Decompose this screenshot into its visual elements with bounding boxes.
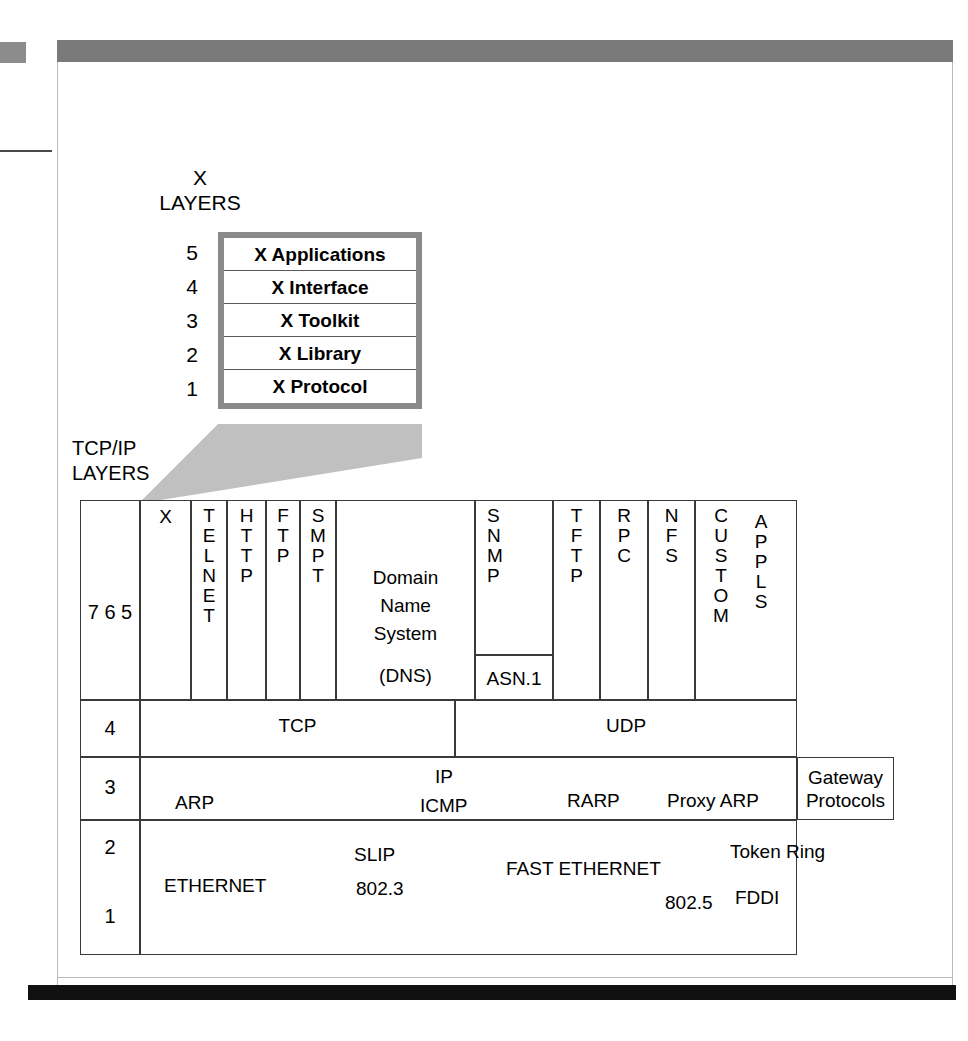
appls-letter-3: L xyxy=(756,572,767,592)
diagram-page: X LAYERS 5 4 3 2 1 X Applications X Inte… xyxy=(0,0,968,1041)
link-label-802-3: 802.3 xyxy=(356,878,404,900)
layer-number-1: 1 xyxy=(80,902,140,930)
http-letter-1: T xyxy=(241,526,253,546)
x-layer-number-3: 3 xyxy=(178,304,206,337)
tftp-letter-2: T xyxy=(571,546,583,566)
appls-letter-2: P xyxy=(755,552,768,572)
protocol-label-dns: Domain Name System xyxy=(336,564,475,648)
x-layer-row-applications: X Applications xyxy=(224,238,416,271)
link-label-slip: SLIP xyxy=(354,844,395,866)
dns-line-1: Name xyxy=(336,592,475,620)
tcpip-table: 7 6 5 X T E L N E T H T T P F T P xyxy=(80,500,797,955)
ftp-letter-1: T xyxy=(277,526,289,546)
rpc-letter-1: P xyxy=(618,526,631,546)
x-layer-row-toolkit: X Toolkit xyxy=(224,304,416,337)
custom-letter-1: U xyxy=(714,526,728,546)
telnet-letter-5: T xyxy=(203,606,215,626)
custom-letter-3: T xyxy=(715,566,727,586)
protocol-label-ftp: F T P xyxy=(266,506,300,566)
http-letter-3: P xyxy=(240,566,253,586)
layer-number-3: 3 xyxy=(80,773,140,801)
telnet-letter-1: E xyxy=(203,526,216,546)
gateway-protocols-cell: Gateway Protocols xyxy=(797,757,894,820)
layer-number-2: 2 xyxy=(80,833,140,861)
dns-line-0: Domain xyxy=(336,564,475,592)
x-layer-number-4: 4 xyxy=(178,270,206,303)
protocol-label-http: H T T P xyxy=(227,506,266,586)
telnet-letter-4: E xyxy=(203,586,216,606)
network-label-arp: ARP xyxy=(175,792,214,814)
x-layer-number-2: 2 xyxy=(178,338,206,371)
tcpip-layers-caption: TCP/IP LAYERS xyxy=(72,436,149,486)
nfs-letter-1: F xyxy=(666,526,678,546)
x-layer-row-protocol: X Protocol xyxy=(224,370,416,403)
page-frame-left xyxy=(57,62,58,988)
tftp-letter-0: T xyxy=(571,506,583,526)
page-border-right xyxy=(952,58,953,988)
snmp-letter-1: N xyxy=(487,526,501,546)
x-layers-caption: X LAYERS xyxy=(140,165,260,215)
link-label-802-5: 802.5 xyxy=(665,892,713,914)
telnet-letter-0: T xyxy=(203,506,215,526)
appls-letter-1: P xyxy=(755,532,768,552)
connector-wedge xyxy=(130,418,430,504)
transport-label-udp: UDP xyxy=(455,715,797,737)
link-label-fast-ethernet: FAST ETHERNET xyxy=(506,858,661,880)
dns-line-2: System xyxy=(336,620,475,648)
smpt-letter-3: T xyxy=(312,566,324,586)
tftp-letter-1: F xyxy=(571,526,583,546)
x-layer-row-library: X Library xyxy=(224,337,416,370)
protocol-label-custom: C U S T O M xyxy=(701,506,741,626)
tftp-letter-3: P xyxy=(570,566,583,586)
layer-number-4: 4 xyxy=(80,714,140,742)
smpt-letter-0: S xyxy=(312,506,325,526)
appls-letter-0: A xyxy=(755,512,768,532)
rpc-letter-0: R xyxy=(617,506,631,526)
smpt-letter-2: P xyxy=(312,546,325,566)
snmp-letter-0: S xyxy=(487,506,500,526)
http-letter-0: H xyxy=(240,506,254,526)
link-label-token-ring: Token Ring xyxy=(730,841,825,863)
ftp-letter-2: P xyxy=(277,546,290,566)
protocol-label-asn1: ASN.1 xyxy=(475,668,553,690)
appls-letter-4: S xyxy=(755,592,768,612)
protocol-label-dns-acronym: (DNS) xyxy=(336,665,475,687)
protocol-label-x: X xyxy=(140,506,191,528)
margin-mark-block xyxy=(0,42,26,63)
http-letter-2: T xyxy=(241,546,253,566)
footer-bar xyxy=(28,985,956,1000)
transport-label-tcp: TCP xyxy=(140,715,455,737)
link-label-ethernet: ETHERNET xyxy=(164,875,266,897)
link-label-fddi: FDDI xyxy=(735,887,779,909)
rpc-letter-2: C xyxy=(617,546,631,566)
protocol-label-rpc: R P C xyxy=(600,506,648,566)
margin-mark-rule xyxy=(0,150,52,152)
ftp-letter-0: F xyxy=(277,506,289,526)
protocol-label-appls: A P P L S xyxy=(741,512,781,612)
custom-letter-2: S xyxy=(715,546,728,566)
custom-letter-5: M xyxy=(713,606,729,626)
network-label-proxy-arp: Proxy ARP xyxy=(667,790,759,812)
header-bar xyxy=(57,40,953,62)
x-layer-number-1: 1 xyxy=(178,372,206,405)
nfs-letter-2: S xyxy=(665,546,678,566)
protocol-label-telnet: T E L N E T xyxy=(191,506,227,626)
custom-letter-0: C xyxy=(714,506,728,526)
x-layer-row-interface: X Interface xyxy=(224,271,416,304)
x-layer-number-5: 5 xyxy=(178,236,206,269)
protocol-cell-x xyxy=(140,500,191,700)
nfs-letter-0: N xyxy=(665,506,679,526)
custom-letter-4: O xyxy=(714,586,729,606)
smpt-letter-1: M xyxy=(310,526,326,546)
telnet-letter-3: N xyxy=(202,566,216,586)
network-label-icmp: ICMP xyxy=(420,795,468,817)
network-label-rarp: RARP xyxy=(567,790,620,812)
protocol-label-nfs: N F S xyxy=(648,506,695,566)
x-layers-box: X Applications X Interface X Toolkit X L… xyxy=(218,232,422,409)
protocol-label-smpt: S M P T xyxy=(300,506,336,586)
protocol-label-snmp: S N M P xyxy=(475,506,553,586)
network-label-ip: IP xyxy=(435,766,453,788)
snmp-letter-2: M xyxy=(487,546,503,566)
layer-numbers-765: 7 6 5 xyxy=(80,598,140,626)
protocol-label-tftp: T F T P xyxy=(553,506,600,586)
